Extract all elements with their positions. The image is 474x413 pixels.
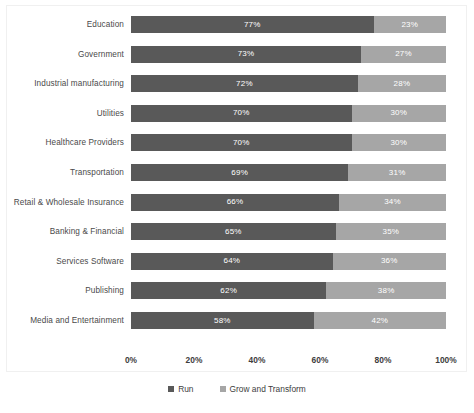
bar-segment-grow-and-transform[interactable]: 30% — [352, 134, 447, 151]
x-axis-tick-label: 40% — [237, 352, 277, 368]
category-label: Publishing — [0, 282, 124, 299]
bar-segment-grow-and-transform[interactable]: 34% — [339, 194, 446, 211]
bar-segment-value: 36% — [381, 257, 398, 265]
bar-segment-grow-and-transform[interactable]: 30% — [352, 105, 447, 122]
bar-segment-grow-and-transform[interactable]: 35% — [336, 223, 446, 240]
bar-segment-value: 31% — [389, 169, 406, 177]
bar-track: 66%34% — [131, 194, 446, 211]
legend-label: Grow and Transform — [230, 384, 306, 394]
bar-track: 58%42% — [131, 312, 446, 329]
bar-row: Publishing62%38% — [0, 282, 474, 299]
bar-row: Healthcare Providers70%30% — [0, 134, 474, 151]
bar-segment-run[interactable]: 77% — [131, 16, 374, 33]
bar-segment-value: 73% — [238, 50, 255, 58]
category-label: Retail & Wholesale Insurance — [0, 194, 124, 211]
bar-segment-value: 70% — [233, 109, 250, 117]
bar-segment-run[interactable]: 69% — [131, 164, 348, 181]
bar-segment-value: 66% — [227, 198, 244, 206]
bar-segment-run[interactable]: 70% — [131, 134, 352, 151]
category-label: Education — [0, 16, 124, 33]
bar-row: Banking & Financial65%35% — [0, 223, 474, 240]
bar-segment-value: 38% — [378, 287, 395, 295]
bar-segment-grow-and-transform[interactable]: 28% — [358, 75, 446, 92]
bar-row: Utilities70%30% — [0, 105, 474, 122]
bar-segment-value: 72% — [236, 80, 253, 88]
bar-track: 69%31% — [131, 164, 446, 181]
bar-track: 70%30% — [131, 134, 446, 151]
bar-segment-run[interactable]: 64% — [131, 253, 333, 270]
bar-segment-grow-and-transform[interactable]: 23% — [374, 16, 446, 33]
category-label: Utilities — [0, 105, 124, 122]
category-label: Healthcare Providers — [0, 134, 124, 151]
bar-track: 64%36% — [131, 253, 446, 270]
bar-track: 72%28% — [131, 75, 446, 92]
bar-track: 62%38% — [131, 282, 446, 299]
bar-segment-grow-and-transform[interactable]: 42% — [314, 312, 446, 329]
bar-segment-run[interactable]: 62% — [131, 282, 326, 299]
bar-segment-value: 28% — [394, 80, 411, 88]
bar-segment-value: 58% — [214, 317, 231, 325]
x-axis-tick-label: 60% — [300, 352, 340, 368]
bar-row: Government73%27% — [0, 46, 474, 63]
bar-segment-grow-and-transform[interactable]: 31% — [348, 164, 446, 181]
bar-segment-grow-and-transform[interactable]: 38% — [326, 282, 446, 299]
bar-segment-run[interactable]: 65% — [131, 223, 336, 240]
bar-segment-run[interactable]: 58% — [131, 312, 314, 329]
bar-segment-grow-and-transform[interactable]: 36% — [333, 253, 446, 270]
bar-row: Services Software64%36% — [0, 253, 474, 270]
bar-segment-run[interactable]: 70% — [131, 105, 352, 122]
bar-row: Transportation69%31% — [0, 164, 474, 181]
bar-row: Retail & Wholesale Insurance66%34% — [0, 194, 474, 211]
bar-segment-value: 42% — [372, 317, 389, 325]
bar-track: 77%23% — [131, 16, 446, 33]
legend-swatch-icon — [220, 386, 226, 392]
bar-segment-value: 30% — [390, 139, 407, 147]
x-axis: 0%20%40%60%80%100% — [0, 352, 474, 368]
legend-item[interactable]: Run — [168, 384, 193, 394]
category-label: Government — [0, 46, 124, 63]
bar-segment-run[interactable]: 66% — [131, 194, 339, 211]
bar-segment-grow-and-transform[interactable]: 27% — [361, 46, 446, 63]
category-label: Services Software — [0, 253, 124, 270]
bar-track: 73%27% — [131, 46, 446, 63]
legend-swatch-icon — [168, 386, 174, 392]
bar-segment-value: 35% — [383, 228, 400, 236]
category-label: Banking & Financial — [0, 223, 124, 240]
category-label: Industrial manufacturing — [0, 75, 124, 92]
bar-segment-value: 65% — [225, 228, 242, 236]
legend-item[interactable]: Grow and Transform — [220, 384, 306, 394]
bar-segment-value: 70% — [233, 139, 250, 147]
x-axis-tick-label: 0% — [111, 352, 151, 368]
bar-segment-run[interactable]: 72% — [131, 75, 358, 92]
bar-segment-value: 69% — [231, 169, 248, 177]
category-label: Transportation — [0, 164, 124, 181]
bar-segment-value: 34% — [384, 198, 401, 206]
bar-row: Industrial manufacturing72%28% — [0, 75, 474, 92]
bar-segment-value: 64% — [223, 257, 240, 265]
bar-segment-value: 77% — [244, 21, 261, 29]
bar-segment-value: 30% — [390, 109, 407, 117]
bar-segment-run[interactable]: 73% — [131, 46, 361, 63]
x-axis-tick-label: 80% — [363, 352, 403, 368]
chart-legend: RunGrow and Transform — [0, 381, 474, 397]
bar-row: Media and Entertainment58%42% — [0, 312, 474, 329]
bar-segment-value: 23% — [401, 21, 418, 29]
x-axis-tick-label: 100% — [426, 352, 466, 368]
bar-track: 65%35% — [131, 223, 446, 240]
stacked-bar-chart: Education77%23%Government73%27%Industria… — [0, 0, 474, 413]
legend-label: Run — [178, 384, 193, 394]
bar-row: Education77%23% — [0, 16, 474, 33]
bar-segment-value: 62% — [220, 287, 237, 295]
bar-track: 70%30% — [131, 105, 446, 122]
bar-rows-container: Education77%23%Government73%27%Industria… — [0, 0, 474, 348]
bar-segment-value: 27% — [395, 50, 412, 58]
category-label: Media and Entertainment — [0, 312, 124, 329]
x-axis-tick-label: 20% — [174, 352, 214, 368]
